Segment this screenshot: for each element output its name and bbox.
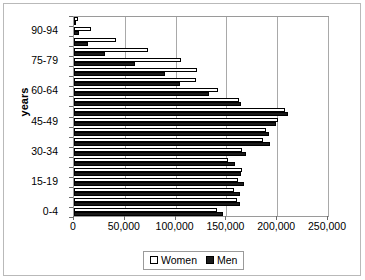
bar-men	[74, 132, 269, 136]
bar-men	[74, 212, 223, 216]
y-axis-tick-label: 45-49	[31, 116, 58, 127]
x-axis-tick-label: 150,000	[206, 220, 244, 232]
bar-group	[74, 87, 328, 97]
legend-label-women: Women	[161, 254, 197, 266]
y-axis-tickmark	[69, 167, 73, 168]
bar-men	[74, 21, 76, 25]
bar-group	[74, 158, 328, 168]
y-axis-tick-label: 30-34	[31, 146, 58, 157]
bar-group	[74, 168, 328, 178]
y-axis-tickmark	[69, 147, 73, 148]
y-axis-tickmark	[69, 207, 73, 208]
bar-men	[74, 42, 88, 46]
bar-group	[74, 77, 328, 87]
y-axis-tickmark	[69, 177, 73, 178]
y-axis-tick-label: 0-4	[43, 206, 58, 217]
bar-group	[74, 67, 328, 77]
y-axis-tick-label: 15-19	[31, 176, 58, 187]
x-axis-tick-label: 250,000	[308, 220, 346, 232]
bar-men	[74, 62, 135, 66]
bar-group	[74, 107, 328, 117]
x-axis-tick-label: 0	[70, 220, 76, 232]
bar-men	[74, 162, 235, 166]
bar-men	[74, 142, 270, 146]
bar-men	[74, 102, 241, 106]
y-axis-tickmark	[69, 157, 73, 158]
bar-group	[74, 37, 328, 47]
y-axis-tickmark	[69, 86, 73, 87]
bar-group	[74, 178, 328, 188]
bar-men	[74, 52, 105, 56]
x-axis-tick-label: 200,000	[257, 220, 295, 232]
bar-group	[74, 17, 328, 27]
y-axis-tick-label: 75-79	[31, 55, 58, 66]
bars-layer	[74, 17, 328, 216]
bar-group	[74, 57, 328, 67]
y-axis-tickmark	[69, 46, 73, 47]
plot-area	[73, 16, 329, 217]
y-axis-tickmark	[69, 56, 73, 57]
x-axis-tick-label: 50,000	[108, 220, 140, 232]
bar-group	[74, 208, 328, 218]
bar-group	[74, 97, 328, 107]
chart-legend: Women Men	[143, 251, 244, 270]
bar-men	[74, 202, 240, 206]
bar-group	[74, 47, 328, 57]
bar-group	[74, 27, 328, 37]
legend-item-men: Men	[206, 254, 237, 266]
y-axis-tick-labels: 90-9475-7960-6445-4930-3415-190-4	[0, 16, 68, 217]
y-axis-tickmark	[69, 66, 73, 67]
y-axis-tickmark	[69, 187, 73, 188]
y-axis-tickmark	[69, 127, 73, 128]
bar-men	[74, 92, 209, 96]
legend-item-women: Women	[150, 254, 197, 266]
y-axis-tickmark	[69, 117, 73, 118]
bar-men	[74, 82, 180, 86]
bar-group	[74, 148, 328, 158]
y-axis-tickmark	[69, 16, 73, 17]
bar-men	[74, 182, 244, 186]
population-pyramid-chart: years 90-9475-7960-6445-4930-3415-190-4 …	[0, 0, 365, 280]
legend-label-men: Men	[217, 254, 237, 266]
bar-men	[74, 172, 241, 176]
bar-group	[74, 188, 328, 198]
y-axis-tickmark	[69, 197, 73, 198]
y-axis-tickmark	[69, 26, 73, 27]
y-axis-tick-label: 60-64	[31, 85, 58, 96]
x-axis-tick-label: 100,000	[156, 220, 194, 232]
bar-men	[74, 31, 79, 35]
gridline	[328, 17, 329, 216]
bar-men	[74, 152, 246, 156]
y-axis-tickmark	[69, 76, 73, 77]
y-axis-tickmark	[69, 106, 73, 107]
bar-men	[74, 192, 240, 196]
y-axis-tick-label: 90-94	[31, 25, 58, 36]
bar-group	[74, 138, 328, 148]
x-axis-tick-labels: 050,000100,000150,000200,000250,000	[73, 220, 329, 236]
y-axis-tickmark	[69, 137, 73, 138]
bar-men	[74, 122, 276, 126]
y-axis-tickmark	[69, 217, 73, 218]
y-axis-tickmark	[69, 96, 73, 97]
legend-swatch-women-icon	[150, 256, 158, 264]
legend-swatch-men-icon	[206, 256, 214, 264]
bar-men	[74, 72, 165, 76]
bar-group	[74, 198, 328, 208]
bar-men	[74, 112, 288, 116]
bar-group	[74, 128, 328, 138]
bar-group	[74, 118, 328, 128]
y-axis-tickmark	[69, 36, 73, 37]
